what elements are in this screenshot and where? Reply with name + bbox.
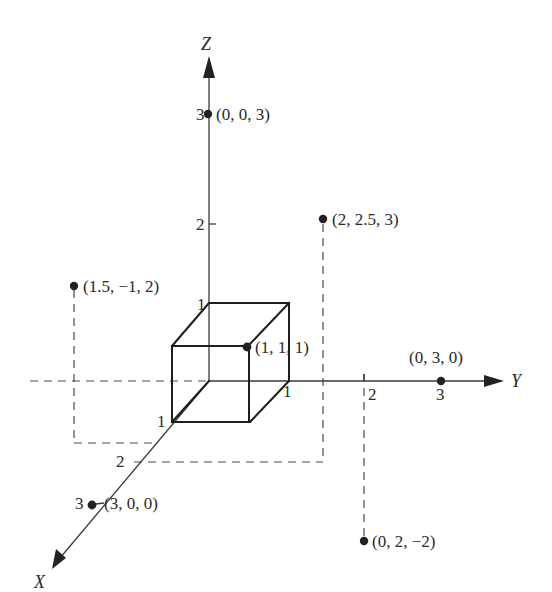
cube-edge-top-left-depth [172,303,209,346]
point-marker [319,215,327,223]
point-marker [88,501,97,510]
point-0-2-m2: (0, 2, −2) [360,532,436,551]
point-label: (1.5, −1, 2) [83,277,159,296]
point-marker [243,343,252,352]
3d-coordinate-diagram: Z 1 2 3 Y 1 2 3 X 1 2 3 [0,0,552,592]
x-axis-label: X [33,572,46,592]
point-marker [360,537,368,545]
x-axis-arrowhead-icon [52,549,66,569]
point-marker [204,110,212,118]
point-3-0-0: (3, 0, 0) [88,494,158,513]
y-axis-arrowhead-icon [484,375,504,387]
x-tick-label-3: 3 [75,494,84,513]
point-0-0-3: (0, 0, 3) [204,105,270,124]
point-label: (1, 1, 1) [255,338,309,357]
x-axis [60,381,209,558]
x-tick-label-2: 2 [116,452,125,471]
y-axis-label: Y [511,371,523,391]
point-label: (0, 2, −2) [372,532,435,551]
point-2-2.5-3: (2, 2.5, 3) [319,210,399,229]
point-label: (2, 2.5, 3) [332,210,399,229]
z-axis-label: Z [201,34,212,54]
z-axis-arrowhead-icon [203,56,215,78]
point-0-3-0: (0, 3, 0) [409,348,463,385]
y-tick-label-3: 3 [436,385,445,404]
z-tick-label-3: 3 [196,105,205,124]
point-label: (0, 0, 3) [216,105,270,124]
z-tick-label-2: 2 [196,215,205,234]
cube-edge-bottom-right-depth [250,381,289,422]
y-tick-label-2: 2 [368,385,377,404]
point-marker [437,377,445,385]
point-1.5-m1-2: (1.5, −1, 2) [70,277,159,296]
point-label: (0, 3, 0) [409,348,463,367]
cube-edge-bottom-left-depth [172,381,209,422]
point-leader-line [96,503,104,504]
point-marker [70,282,78,290]
x-tick-label-1: 1 [157,412,166,431]
point-label: (3, 0, 0) [104,494,158,513]
